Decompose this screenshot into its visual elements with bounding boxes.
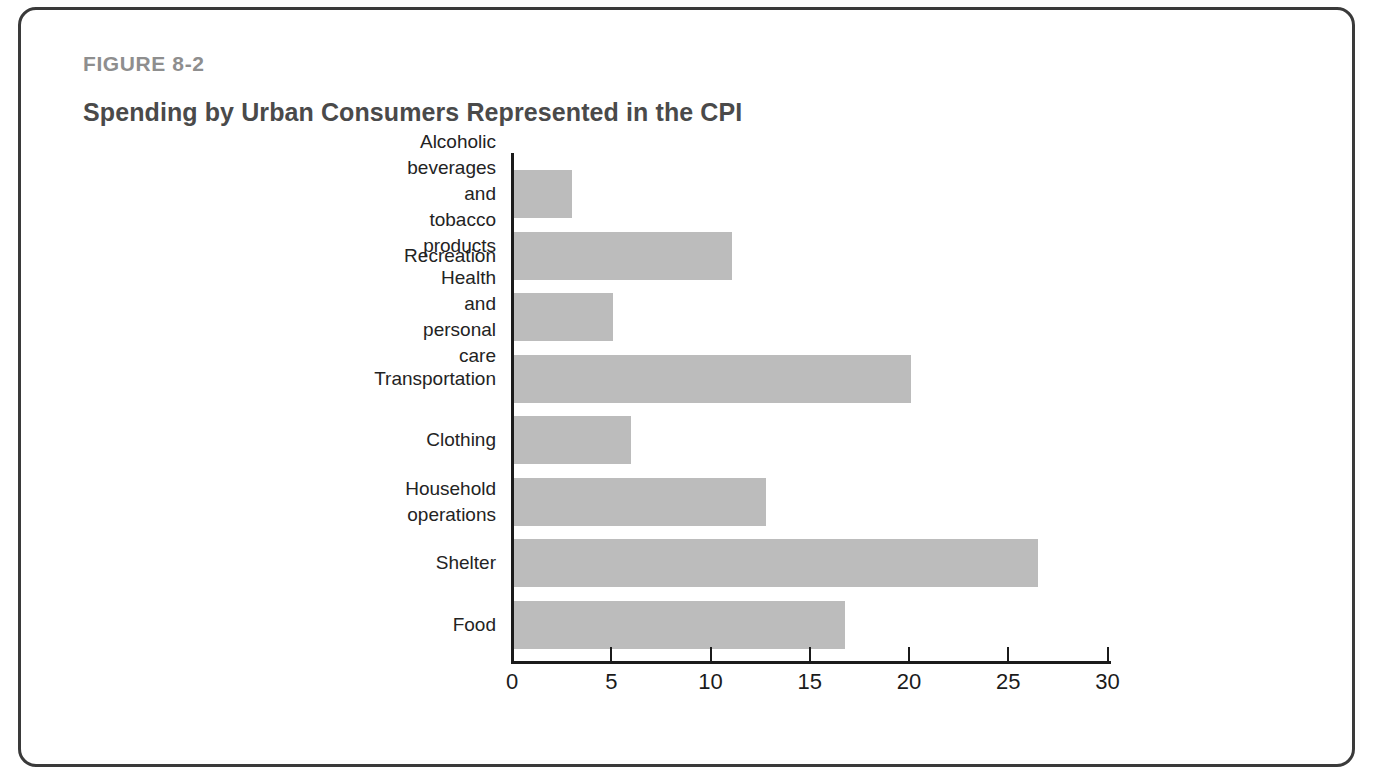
bar — [514, 293, 613, 341]
bar-row: Clothing — [514, 416, 631, 464]
bar-row: Food — [514, 601, 845, 649]
x-tick-label: 25 — [996, 669, 1020, 695]
x-tick-label: 20 — [897, 669, 921, 695]
x-tick-label: 0 — [506, 669, 518, 695]
bar-row: Household operations — [514, 478, 766, 526]
bar — [514, 416, 631, 464]
bar — [514, 170, 572, 218]
category-label: Transportation — [374, 366, 496, 392]
x-tick-label: 10 — [698, 669, 722, 695]
plot-area: Alcoholic beverages and tobacco products… — [511, 153, 1131, 661]
x-tick-mark — [1107, 647, 1109, 661]
category-label: Clothing — [426, 427, 496, 453]
bar-row: Alcoholic beverages and tobacco products — [514, 170, 572, 218]
bar-row: Recreation — [514, 232, 732, 280]
x-axis-line — [511, 661, 1111, 664]
x-tick-mark — [710, 647, 712, 661]
bar — [514, 355, 911, 403]
bar — [514, 601, 845, 649]
x-tick-label: 15 — [798, 669, 822, 695]
category-label: Shelter — [436, 550, 496, 576]
category-label: Health and personal care — [423, 265, 496, 369]
bar-row: Health and personal care — [514, 293, 613, 341]
bar — [514, 539, 1038, 587]
x-tick-label: 30 — [1095, 669, 1119, 695]
x-tick-mark — [908, 647, 910, 661]
bar — [514, 478, 766, 526]
category-label: Alcoholic beverages and tobacco products — [407, 129, 496, 259]
x-tick-label: 5 — [605, 669, 617, 695]
category-label: Food — [453, 612, 496, 638]
x-tick-mark — [1007, 647, 1009, 661]
bar-row: Transportation — [514, 355, 911, 403]
bar-row: Shelter — [514, 539, 1038, 587]
x-tick-mark — [610, 647, 612, 661]
category-label: Household operations — [405, 476, 496, 528]
figure-frame: FIGURE 8-2 Spending by Urban Consumers R… — [18, 7, 1355, 767]
x-tick-mark — [809, 647, 811, 661]
bar — [514, 232, 732, 280]
bar-chart: Alcoholic beverages and tobacco products… — [21, 10, 1358, 710]
